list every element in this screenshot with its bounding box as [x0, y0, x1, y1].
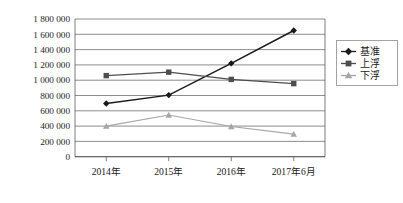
- y-tick-label: 200 000: [40, 137, 70, 147]
- legend-label-baseline: 基准: [360, 45, 380, 57]
- data-point-marker: [166, 112, 172, 118]
- x-tick-label: 2016年: [217, 166, 246, 177]
- data-series-layer: [103, 27, 297, 137]
- x-tick-label: 2017年6月: [272, 166, 316, 177]
- y-tick-label: 1 800 000: [33, 14, 70, 24]
- data-point-marker: [166, 92, 172, 98]
- data-point-marker: [291, 81, 296, 86]
- line-chart: 1 800 000 1 600 000 1 400 000 1 200 000 …: [0, 0, 403, 203]
- y-tick-label: 0: [65, 152, 70, 162]
- y-tick-label: 400 000: [40, 121, 70, 131]
- y-tick-label: 1 200 000: [33, 60, 70, 70]
- legend-label-down: 下浮: [360, 70, 380, 81]
- series-line: [106, 30, 294, 103]
- data-point-marker: [166, 69, 171, 74]
- x-axis-tickmarks: [106, 157, 294, 162]
- series-1: [103, 27, 297, 106]
- y-axis-tick-labels: 1 800 000 1 600 000 1 400 000 1 200 000 …: [33, 14, 70, 162]
- y-tick-label: 1 600 000: [33, 30, 70, 40]
- chart-legend: 基准 上浮 下浮: [337, 41, 398, 86]
- y-tick-label: 1 400 000: [33, 45, 70, 55]
- plot-gridlines: [75, 19, 325, 141]
- y-tick-label: 1 000 000: [33, 75, 70, 85]
- series-2: [104, 69, 297, 86]
- data-point-marker: [228, 60, 234, 66]
- x-axis-tick-labels: 2014年 2015年 2016年 2017年6月: [92, 166, 316, 177]
- y-tick-label: 600 000: [40, 106, 70, 116]
- data-point-marker: [291, 27, 297, 33]
- plot-frame: [75, 19, 325, 157]
- series-3: [103, 112, 297, 137]
- data-point-marker: [103, 100, 109, 106]
- legend-label-up: 上浮: [360, 58, 380, 69]
- x-tick-label: 2015年: [154, 166, 183, 177]
- chart-canvas: 1 800 000 1 600 000 1 400 000 1 200 000 …: [0, 0, 403, 203]
- series-line: [106, 72, 294, 83]
- data-point-marker: [229, 77, 234, 82]
- series-line: [106, 115, 294, 134]
- x-tick-label: 2014年: [92, 166, 121, 177]
- data-point-marker: [104, 73, 109, 78]
- y-tick-label: 800 000: [40, 91, 70, 101]
- square-marker-icon: [346, 61, 352, 67]
